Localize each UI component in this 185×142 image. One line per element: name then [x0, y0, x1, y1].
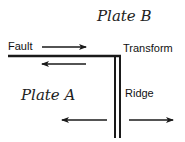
plate-b-label: Plate B — [97, 7, 152, 25]
transform-label: Transform — [123, 42, 173, 54]
fault-label: Fault — [8, 40, 32, 52]
ridge-label: Ridge — [125, 87, 154, 99]
diagram-canvas — [0, 0, 185, 142]
plate-a-label: Plate A — [21, 86, 75, 104]
